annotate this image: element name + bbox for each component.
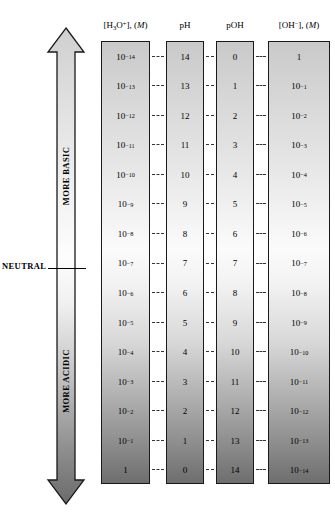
cell-h3o-13: 10−1 <box>102 426 149 456</box>
column-h3o: 10−1410−1310−1210−1110−1010−910−810−710−… <box>101 41 150 484</box>
cell-poh-5: 5 <box>217 190 253 220</box>
cell-poh-14: 14 <box>217 455 253 485</box>
cell-h3o-12: 10−2 <box>102 396 149 426</box>
cell-poh-3: 3 <box>217 131 253 161</box>
connector-line <box>256 85 266 86</box>
connector-line <box>256 233 266 234</box>
cell-oh-0: 1 <box>269 42 329 72</box>
connector-line <box>152 85 164 86</box>
column-header-ph: pH <box>166 20 204 30</box>
connector-line <box>206 292 214 293</box>
column-ph: 14131211109876543210 <box>166 41 204 484</box>
cell-h3o-14: 1 <box>102 455 149 485</box>
connector-line <box>152 203 164 204</box>
cell-oh-9: 10−9 <box>269 308 329 338</box>
connector-line <box>152 174 164 175</box>
connector-line <box>152 469 164 470</box>
connector-line <box>152 144 164 145</box>
cell-oh-6: 10−6 <box>269 219 329 249</box>
neutral-label: NEUTRAL <box>2 261 46 271</box>
cell-h3o-7: 10−7 <box>102 249 149 279</box>
cell-h3o-10: 10−4 <box>102 337 149 367</box>
arrow-label-more-basic: MORE BASIC <box>61 147 71 206</box>
cell-ph-11: 3 <box>167 367 203 397</box>
connector-line <box>256 469 266 470</box>
cell-h3o-1: 10−13 <box>102 72 149 102</box>
cell-poh-6: 6 <box>217 219 253 249</box>
double-headed-arrow-icon <box>46 26 86 506</box>
cell-poh-10: 10 <box>217 337 253 367</box>
cell-poh-8: 8 <box>217 278 253 308</box>
cell-oh-5: 10−5 <box>269 190 329 220</box>
cell-ph-12: 2 <box>167 396 203 426</box>
connector-line <box>256 322 266 323</box>
connector-line <box>206 203 214 204</box>
connector-line <box>152 322 164 323</box>
cell-oh-14: 10−14 <box>269 455 329 485</box>
column-header-h3o: [H3O+], (M) <box>101 20 150 31</box>
cell-ph-1: 13 <box>167 72 203 102</box>
cell-oh-3: 10−3 <box>269 131 329 161</box>
connector-line <box>152 292 164 293</box>
cell-ph-5: 9 <box>167 190 203 220</box>
cell-ph-4: 10 <box>167 160 203 190</box>
connector-line <box>206 410 214 411</box>
connector-line <box>206 440 214 441</box>
cell-poh-1: 1 <box>217 72 253 102</box>
cell-ph-6: 8 <box>167 219 203 249</box>
acidity-basicity-arrow: MORE BASIC MORE ACIDIC <box>46 26 86 506</box>
column-poh: 01234567891011121314 <box>216 41 254 484</box>
cell-poh-7: 7 <box>217 249 253 279</box>
cell-oh-12: 10−12 <box>269 396 329 426</box>
connector-line <box>256 292 266 293</box>
cell-oh-10: 10−10 <box>269 337 329 367</box>
connector-line <box>152 115 164 116</box>
connector-line <box>206 233 214 234</box>
cell-ph-8: 6 <box>167 278 203 308</box>
connector-line <box>152 263 164 264</box>
cell-ph-9: 5 <box>167 308 203 338</box>
cell-ph-3: 11 <box>167 131 203 161</box>
connector-line <box>256 381 266 382</box>
cell-h3o-8: 10−6 <box>102 278 149 308</box>
connector-line <box>256 351 266 352</box>
connector-line <box>206 263 214 264</box>
cell-poh-2: 2 <box>217 101 253 131</box>
connector-line <box>206 174 214 175</box>
connector-line <box>256 174 266 175</box>
column-header-poh: pOH <box>216 20 254 30</box>
cell-h3o-9: 10−5 <box>102 308 149 338</box>
connector-line <box>256 410 266 411</box>
connector-line <box>206 85 214 86</box>
connector-line <box>152 381 164 382</box>
column-oh: 110−110−210−310−410−510−610−710−810−910−… <box>268 41 330 484</box>
connector-line <box>206 351 214 352</box>
connector-line <box>152 351 164 352</box>
cell-ph-14: 0 <box>167 455 203 485</box>
cell-h3o-11: 10−3 <box>102 367 149 397</box>
cell-oh-11: 10−11 <box>269 367 329 397</box>
cell-oh-2: 10−2 <box>269 101 329 131</box>
connector-line <box>206 115 214 116</box>
cell-poh-0: 0 <box>217 42 253 72</box>
ph-scale-diagram: MORE BASIC MORE ACIDIC NEUTRAL [H3O+], (… <box>0 0 335 519</box>
cell-h3o-3: 10−11 <box>102 131 149 161</box>
cell-oh-8: 10−8 <box>269 278 329 308</box>
arrow-label-more-acidic: MORE ACIDIC <box>61 349 71 413</box>
cell-poh-11: 11 <box>217 367 253 397</box>
cell-poh-4: 4 <box>217 160 253 190</box>
connector-line <box>256 115 266 116</box>
cell-ph-0: 14 <box>167 42 203 72</box>
connector-line <box>256 440 266 441</box>
connector-line <box>152 410 164 411</box>
connector-line <box>206 322 214 323</box>
neutral-tick-line <box>48 268 86 269</box>
connector-line <box>152 233 164 234</box>
connector-line <box>256 203 266 204</box>
cell-h3o-5: 10−9 <box>102 190 149 220</box>
cell-ph-10: 4 <box>167 337 203 367</box>
column-header-oh: [OH−], (M) <box>268 20 330 30</box>
cell-oh-7: 10−7 <box>269 249 329 279</box>
connector-line <box>152 56 164 57</box>
cell-ph-13: 1 <box>167 426 203 456</box>
